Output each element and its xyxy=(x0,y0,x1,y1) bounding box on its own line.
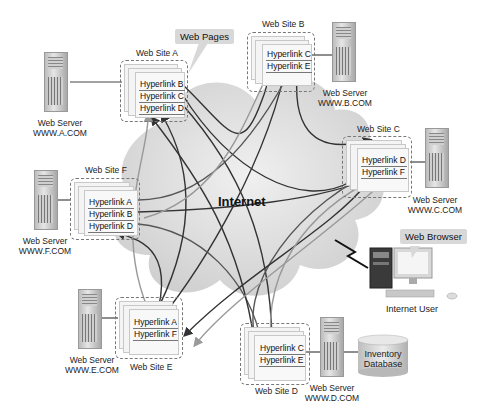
database-label-line1: Inventory xyxy=(358,349,408,359)
web-server-a-icon xyxy=(44,52,68,112)
web-site-d-title: Web Site D xyxy=(255,386,298,396)
web-server-b-icon xyxy=(332,22,356,82)
web-pages-callout-tail xyxy=(188,40,210,74)
hyperlink[interactable]: Hyperlink E xyxy=(266,61,312,73)
web-site-d-links: Hyperlink C Hyperlink E xyxy=(259,343,305,367)
hyperlink[interactable]: Hyperlink D xyxy=(88,221,134,233)
hyperlink[interactable]: Hyperlink D xyxy=(139,103,185,115)
web-server-b-label: Web Server xyxy=(315,88,375,98)
web-site-c-title: Web Site C xyxy=(357,124,400,134)
web-server-d-domain: WWW.D.COM xyxy=(302,393,362,403)
web-server-a-domain: WWW.A.COM xyxy=(30,128,90,138)
web-server-c-label: Web Server xyxy=(405,195,465,205)
hyperlink[interactable]: Hyperlink E xyxy=(259,355,305,367)
hyperlink[interactable]: Hyperlink F xyxy=(133,329,178,341)
web-site-f-title: Web Site F xyxy=(85,165,127,175)
web-site-a-title: Web Site A xyxy=(136,48,178,58)
hyperlink[interactable]: Hyperlink F xyxy=(361,167,407,179)
web-site-e-title: Web Site E xyxy=(130,362,172,372)
hyperlink[interactable]: Hyperlink B xyxy=(88,209,134,221)
web-server-a-label: Web Server xyxy=(30,118,90,128)
web-site-e-links: Hyperlink A Hyperlink F xyxy=(133,317,178,341)
web-site-c-links: Hyperlink D Hyperlink F xyxy=(361,155,407,179)
web-server-f-icon xyxy=(34,170,58,230)
hyperlink[interactable]: Hyperlink D xyxy=(361,155,407,167)
web-server-d-label: Web Server xyxy=(302,383,362,393)
internet-label: Internet xyxy=(218,194,266,209)
internet-user-label: Internet User xyxy=(382,304,442,314)
web-server-b-domain: WWW.B.COM xyxy=(315,98,375,108)
hyperlink[interactable]: Hyperlink A xyxy=(88,197,134,209)
web-server-f-domain: WWW.F.COM xyxy=(15,246,75,256)
web-pages-callout: Web Pages xyxy=(175,29,234,44)
web-server-e-icon xyxy=(78,289,102,349)
hyperlink[interactable]: Hyperlink B xyxy=(139,79,185,91)
web-server-f-label: Web Server xyxy=(15,236,75,246)
web-site-b-links: Hyperlink C Hyperlink E xyxy=(266,49,312,73)
hyperlink[interactable]: Hyperlink C xyxy=(259,343,305,355)
web-site-a-links: Hyperlink B Hyperlink C Hyperlink D xyxy=(139,79,185,115)
web-server-d-icon xyxy=(320,317,344,377)
web-server-e-label: Web Server xyxy=(62,355,122,365)
web-site-b-title: Web Site B xyxy=(262,19,304,29)
database-label-line2: Database xyxy=(358,359,408,369)
hyperlink[interactable]: Hyperlink C xyxy=(266,49,312,61)
web-browser-callout: Web Browser xyxy=(400,229,467,244)
web-site-f-links: Hyperlink A Hyperlink B Hyperlink D xyxy=(88,197,134,233)
hyperlink[interactable]: Hyperlink A xyxy=(133,317,178,329)
web-server-c-icon xyxy=(425,128,449,188)
hyperlink[interactable]: Hyperlink C xyxy=(139,91,185,103)
web-server-c-domain: WWW.C.COM xyxy=(405,205,465,215)
web-server-e-domain: WWW.E.COM xyxy=(62,365,122,375)
